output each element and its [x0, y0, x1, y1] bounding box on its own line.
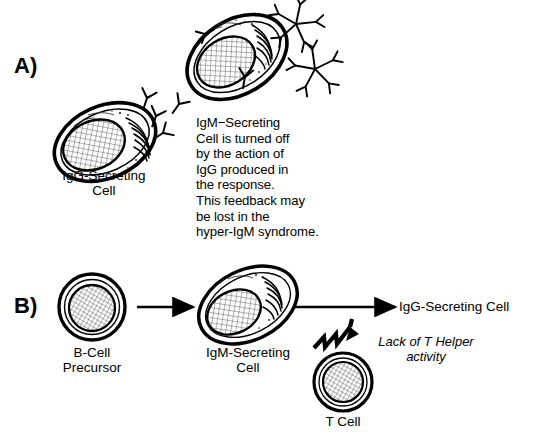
panel-b-lightning-bolt-arrow-icon	[314, 319, 359, 348]
panel-a-caption: IgM−Secreting Cell is turned off by the …	[196, 115, 376, 240]
panel-b-t-cell-label: T Cell	[300, 414, 386, 429]
panel-a-igg-antibody-icons	[136, 88, 189, 145]
panel-a-igg-cell-label: IgG-Secreting Cell	[23, 168, 185, 198]
panel-a-igm-plasma-cell	[172, 0, 303, 117]
panel-b-b-cell-precursor-label: B-Cell Precursor	[27, 345, 157, 375]
panel-a-igm-pentamer-icons	[263, 0, 347, 99]
panel-b-lack-of-t-helper-note: Lack of T Helper activity	[361, 334, 491, 364]
panel-b-igm-secreting-cell-label: IgM-Secreting Cell	[186, 345, 310, 375]
panel-b-igm-secreting-cell	[186, 251, 310, 360]
figure-canvas: A) IgG-Secreting Cell IgM−Secreting Cell…	[0, 0, 534, 435]
panel-a-label: A)	[14, 55, 37, 77]
panel-b-b-cell-precursor	[59, 274, 125, 340]
panel-b-igg-secreting-cell-label: IgG-Secreting Cell	[399, 299, 509, 314]
panel-b-label: B)	[14, 295, 37, 317]
